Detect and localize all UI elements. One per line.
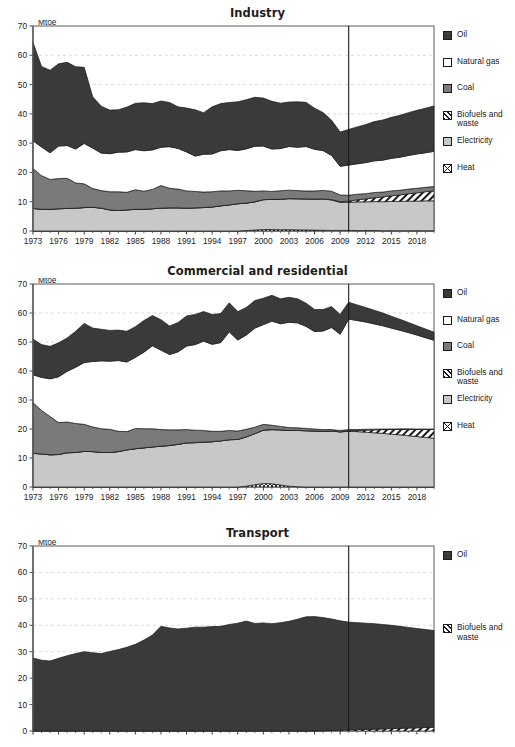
x-tick-label: 2015 xyxy=(382,236,401,246)
legend-swatch-icon xyxy=(443,395,452,404)
y-tick-label: 50 xyxy=(18,337,28,347)
legend-swatch-icon xyxy=(443,316,452,325)
y-axis-unit-label: Mtoe xyxy=(38,540,57,547)
legend-swatch-icon xyxy=(443,31,452,40)
y-tick-label: 30 xyxy=(18,395,28,405)
legend-swatch-icon xyxy=(443,551,452,560)
x-tick-label: 1976 xyxy=(49,236,68,246)
legend-item-oil[interactable]: Oil xyxy=(443,550,503,623)
y-tick-label: 60 xyxy=(18,567,28,577)
y-tick-label: 0 xyxy=(22,482,27,492)
y-tick-label: 30 xyxy=(18,647,28,657)
y-tick-label: 60 xyxy=(18,50,28,60)
chart-panel-transport: Transport010203040506070MtoeOilBiofuels … xyxy=(0,520,515,747)
x-tick-label: 1973 xyxy=(24,492,43,502)
legend-swatch-icon xyxy=(443,342,452,351)
legend-item-electricity[interactable]: Electricity xyxy=(443,394,503,421)
legend-label: Electricity xyxy=(457,394,493,404)
legend-label: Heat xyxy=(457,163,475,173)
legend-item-natural-gas[interactable]: Natural gas xyxy=(443,315,503,342)
y-tick-label: 10 xyxy=(18,700,28,710)
chart-title: Commercial and residential xyxy=(0,258,515,278)
y-tick-label: 20 xyxy=(18,424,28,434)
legend-label: Natural gas xyxy=(457,315,499,325)
legend-swatch-icon xyxy=(443,624,452,633)
y-tick-label: 70 xyxy=(18,21,28,31)
x-tick-label: 2006 xyxy=(305,492,324,502)
y-tick-label: 70 xyxy=(18,279,28,289)
y-tick-label: 40 xyxy=(18,620,28,630)
x-tick-label: 2003 xyxy=(280,492,299,502)
legend-item-biofuels-and-waste[interactable]: Biofuels and waste xyxy=(443,368,503,395)
legend-label: Oil xyxy=(457,550,467,560)
chart-legend: OilNatural gasCoalBiofuels and wasteElec… xyxy=(443,288,503,447)
x-tick-label: 2018 xyxy=(408,492,427,502)
legend-swatch-icon xyxy=(443,422,452,431)
x-tick-label: 1988 xyxy=(152,492,171,502)
y-tick-label: 0 xyxy=(22,726,27,736)
legend-swatch-icon xyxy=(443,369,452,378)
x-tick-label: 2009 xyxy=(331,492,350,502)
chart-title: Industry xyxy=(0,0,515,20)
x-tick-label: 2012 xyxy=(357,236,376,246)
y-tick-label: 40 xyxy=(18,366,28,376)
y-tick-label: 40 xyxy=(18,109,28,119)
legend-item-coal[interactable]: Coal xyxy=(443,341,503,368)
chart-panel-commercial-and-residential: Commercial and residential01020304050607… xyxy=(0,258,515,520)
x-tick-label: 2012 xyxy=(357,492,376,502)
legend-item-biofuels-and-waste[interactable]: Biofuels and waste xyxy=(443,623,503,696)
chart-legend: OilNatural gasCoalBiofuels and wasteElec… xyxy=(443,30,503,189)
legend-item-biofuels-and-waste[interactable]: Biofuels and waste xyxy=(443,110,503,137)
plot-area: 010203040506070MtoeOilBiofuels and waste xyxy=(0,540,515,747)
chart-legend: OilBiofuels and waste xyxy=(443,550,503,696)
legend-label: Coal xyxy=(457,83,474,93)
legend-item-oil[interactable]: Oil xyxy=(443,288,503,315)
legend-item-heat[interactable]: Heat xyxy=(443,163,503,190)
x-tick-label: 2018 xyxy=(408,236,427,246)
legend-label: Electricity xyxy=(457,136,493,146)
x-tick-label: 1982 xyxy=(101,492,120,502)
legend-swatch-icon xyxy=(443,58,452,67)
y-tick-label: 10 xyxy=(18,453,28,463)
legend-item-coal[interactable]: Coal xyxy=(443,83,503,110)
y-tick-label: 0 xyxy=(22,226,27,236)
x-tick-label: 1991 xyxy=(177,236,196,246)
x-tick-label: 1985 xyxy=(126,492,145,502)
plot-area: 010203040506070Mtoe197319761979198219851… xyxy=(0,20,515,247)
x-tick-label: 1994 xyxy=(203,492,222,502)
legend-swatch-icon xyxy=(443,84,452,93)
x-tick-label: 1997 xyxy=(229,236,248,246)
y-axis-unit-label: Mtoe xyxy=(38,278,57,285)
x-tick-label: 1988 xyxy=(152,236,171,246)
y-tick-label: 60 xyxy=(18,308,28,318)
legend-item-heat[interactable]: Heat xyxy=(443,421,503,448)
legend-label: Coal xyxy=(457,341,474,351)
legend-label: Biofuels and waste xyxy=(457,368,503,387)
x-tick-label: 1982 xyxy=(101,236,120,246)
plot-area: 010203040506070Mtoe197319761979198219851… xyxy=(0,278,515,503)
x-tick-label: 1976 xyxy=(49,492,68,502)
x-tick-label: 1979 xyxy=(75,492,94,502)
y-tick-label: 20 xyxy=(18,167,28,177)
x-tick-label: 1991 xyxy=(177,492,196,502)
legend-label: Biofuels and waste xyxy=(457,110,503,129)
x-tick-label: 2009 xyxy=(331,236,350,246)
legend-swatch-icon xyxy=(443,111,452,120)
legend-label: Oil xyxy=(457,288,467,298)
chart-title: Transport xyxy=(0,520,515,540)
legend-item-natural-gas[interactable]: Natural gas xyxy=(443,57,503,84)
x-tick-label: 1997 xyxy=(229,492,248,502)
y-axis-unit-label: Mtoe xyxy=(38,20,57,27)
y-tick-label: 50 xyxy=(18,594,28,604)
charts-container: Industry010203040506070Mtoe1973197619791… xyxy=(0,0,515,747)
legend-swatch-icon xyxy=(443,164,452,173)
x-tick-label: 2000 xyxy=(254,236,273,246)
legend-swatch-icon xyxy=(443,289,452,298)
legend-label: Heat xyxy=(457,421,475,431)
x-tick-label: 1985 xyxy=(126,236,145,246)
x-tick-label: 2003 xyxy=(280,236,299,246)
legend-item-oil[interactable]: Oil xyxy=(443,30,503,57)
legend-item-electricity[interactable]: Electricity xyxy=(443,136,503,163)
x-tick-label: 1979 xyxy=(75,236,94,246)
x-tick-label: 2006 xyxy=(305,236,324,246)
